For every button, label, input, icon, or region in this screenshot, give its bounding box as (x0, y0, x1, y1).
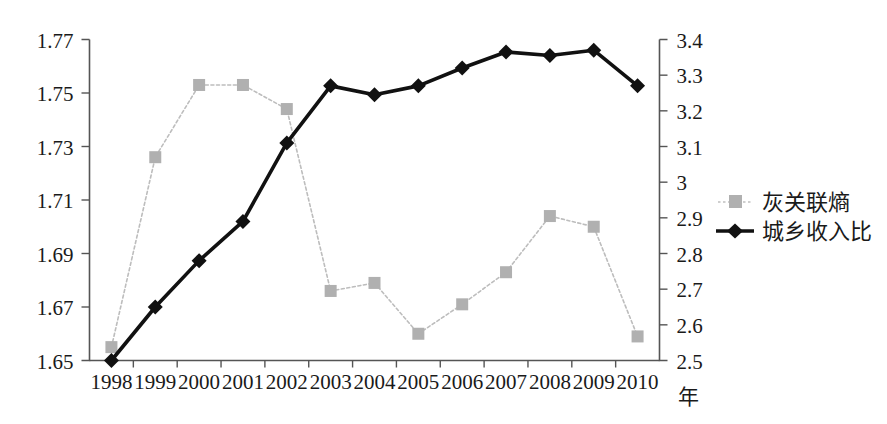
legend-label-black: 城乡收入比 (762, 219, 872, 244)
left-axis-tick-label: 1.67 (37, 296, 74, 320)
data-point-marker[interactable] (369, 277, 381, 289)
left-axis-tick-label: 1.73 (37, 136, 74, 160)
data-point-marker[interactable] (149, 151, 161, 163)
data-point-marker[interactable] (412, 328, 424, 340)
left-axis-tick-label: 1.69 (37, 243, 74, 267)
data-point-marker[interactable] (456, 298, 468, 310)
left-axis-tick-label: 1.65 (37, 350, 74, 374)
x-axis-tick-label: 1999 (134, 370, 176, 394)
data-point-marker[interactable] (325, 285, 337, 297)
right-axis-tick-label: 2.8 (677, 243, 703, 267)
x-axis-tick-label: 2002 (266, 370, 308, 394)
x-axis-tick-label: 2005 (397, 370, 439, 394)
legend-label-gray: 灰关联熵 (762, 190, 850, 215)
right-axis-tick-label: 2.6 (677, 314, 703, 338)
right-axis-tick-label: 3 (677, 171, 688, 195)
data-point-marker[interactable] (105, 341, 117, 353)
x-axis-tick-label: 2008 (529, 370, 571, 394)
right-axis-tick-label: 3.2 (677, 100, 703, 124)
x-axis-tick-label: 1998 (90, 370, 132, 394)
left-axis-tick-label: 1.75 (37, 82, 74, 106)
data-point-marker[interactable] (632, 330, 644, 342)
data-point-marker[interactable] (281, 103, 293, 115)
right-axis-tick-label: 3.4 (677, 29, 704, 53)
right-axis-tick-label: 2.5 (677, 350, 703, 374)
x-axis-tick-label: 2009 (573, 370, 615, 394)
square-marker-icon (729, 195, 742, 208)
x-axis-tick-label: 2006 (441, 370, 483, 394)
x-axis-tick-label: 2004 (354, 370, 397, 394)
right-axis-tick-label: 3.3 (677, 64, 703, 88)
x-axis-title: 年 (678, 385, 699, 409)
left-axis-tick-label: 1.77 (37, 29, 74, 53)
data-point-marker[interactable] (500, 266, 512, 278)
data-point-marker[interactable] (588, 221, 600, 233)
x-axis-tick-label: 2001 (222, 370, 264, 394)
x-axis-tick-label: 2010 (617, 370, 659, 394)
data-point-marker[interactable] (544, 210, 556, 222)
x-axis-tick-label: 2000 (178, 370, 220, 394)
right-axis-tick-label: 2.7 (677, 278, 703, 302)
x-axis-tick-labels: 1998199920002001200220032004200520062007… (90, 370, 658, 394)
line-chart: 1.651.671.691.711.731.751.77 2.52.62.72.… (0, 0, 887, 424)
data-point-marker[interactable] (193, 79, 205, 91)
data-point-marker[interactable] (237, 79, 249, 91)
right-axis-tick-label: 2.9 (677, 207, 703, 231)
right-axis-tick-label: 3.1 (677, 136, 703, 160)
x-axis-tick-label: 2003 (310, 370, 352, 394)
chart-container: 1.651.671.691.711.731.751.77 2.52.62.72.… (0, 0, 887, 424)
left-axis-tick-label: 1.71 (37, 189, 74, 213)
x-axis-tick-label: 2007 (485, 370, 527, 394)
